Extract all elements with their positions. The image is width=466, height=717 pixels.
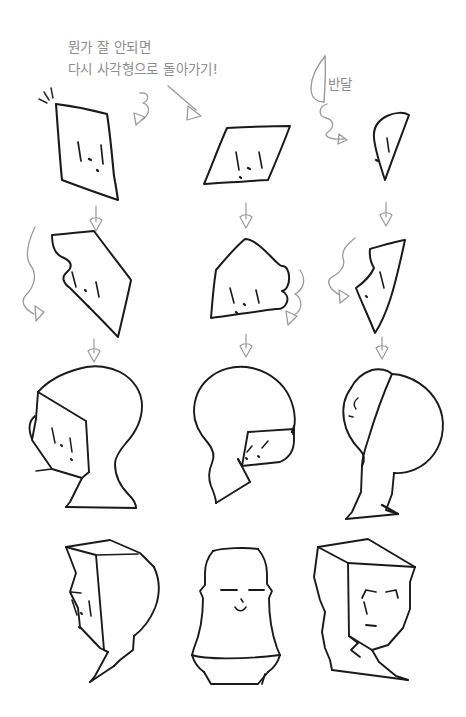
half-moon-label-text: 반달 — [328, 74, 353, 95]
note-line-2: 다시 사각형으로 돌아가기! — [68, 59, 218, 80]
note-line-1: 뭔가 잘 안되면 — [68, 37, 151, 58]
paper-background — [0, 0, 466, 717]
sketch-canvas: 반달 — [0, 0, 466, 717]
